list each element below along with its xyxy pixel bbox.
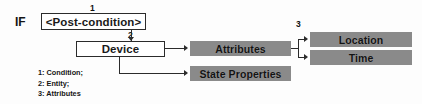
edge-attributes-time-arrow (304, 54, 308, 60)
edge-postcondition-device-arrow (128, 37, 134, 41)
legend-item-2: 2: Entity; (38, 79, 83, 90)
node-device[interactable]: Device (76, 41, 165, 57)
node-time[interactable]: Time (310, 50, 412, 65)
marker-1: 1 (90, 3, 95, 13)
edge-device-stateproperties-hline (119, 73, 185, 74)
edge-device-attributes-line (165, 48, 185, 49)
edge-device-attributes-arrow (184, 45, 188, 51)
edge-device-stateproperties-vline (119, 57, 120, 74)
edge-attributes-split-line (298, 39, 299, 57)
edge-device-stateproperties-arrow (184, 70, 188, 76)
if-keyword-label: IF (15, 15, 26, 29)
node-state-properties[interactable]: State Properties (190, 66, 291, 81)
legend: 1: Condition; 2: Entity; 3: Attributes (38, 68, 83, 100)
node-post-condition[interactable]: <Post-condition> (41, 13, 146, 30)
legend-item-1: 1: Condition; (38, 68, 83, 79)
node-location[interactable]: Location (310, 32, 412, 47)
marker-3: 3 (296, 19, 301, 29)
edge-attributes-location-arrow (304, 36, 308, 42)
diagram-canvas: IF 1 2 3 <Post-condition> Device Attribu… (0, 0, 422, 104)
legend-item-3: 3: Attributes (38, 89, 83, 100)
node-attributes[interactable]: Attributes (190, 41, 291, 56)
